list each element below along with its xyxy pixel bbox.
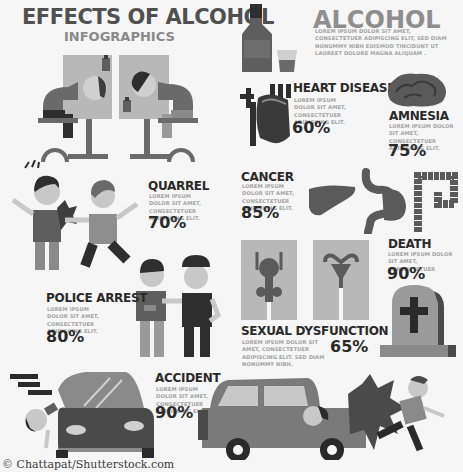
- drunk-men-illustration: [38, 52, 198, 162]
- police-arrest-percent: 80%: [46, 327, 84, 346]
- sexual-dysfunction-description: LOREM IPSUM DOLOR SIT AMET, CONSECTETUER…: [242, 339, 330, 368]
- shot-glass-icon: [277, 50, 297, 72]
- intestine-icon: [412, 168, 460, 234]
- death-heading: DEATH: [388, 237, 431, 251]
- accident-percent: 90%: [155, 403, 193, 422]
- amnesia-heading: AMNESIA: [389, 109, 449, 123]
- cancer-percent: 85%: [241, 203, 279, 222]
- liver-icon: [307, 183, 357, 217]
- amnesia-percent: 75%: [388, 141, 426, 160]
- fighting-men-illustration: [5, 160, 145, 270]
- reproductive-organs-illustration: [241, 240, 371, 322]
- police-arrest-heading: POLICE ARREST: [46, 291, 147, 305]
- brain-icon: [384, 70, 448, 110]
- quarrel-percent: 70%: [148, 213, 186, 232]
- car-hitting-pedestrian-illustration: [198, 368, 460, 460]
- tombstone-icon: [378, 283, 460, 359]
- police-arrest-illustration: [132, 255, 224, 360]
- stomach-icon: [360, 168, 410, 234]
- heart-disease-heading: HEART DISEASE: [293, 81, 395, 95]
- heart-disease-percent: 60%: [292, 118, 330, 137]
- sexual-dysfunction-heading: SEXUAL DYSFUNCTION: [241, 324, 388, 338]
- infographic-title: EFFECTS OF ALCOHOL: [22, 5, 274, 29]
- bottle-icon: [240, 4, 274, 72]
- quarrel-heading: QUARREL: [148, 179, 209, 193]
- photo-credit: © Chattapat/Shutterstock.com: [2, 458, 174, 471]
- infographic-subtitle: INFOGRAPHICS: [64, 29, 175, 44]
- heart-icon: [240, 80, 296, 146]
- cancer-heading: CANCER: [241, 170, 294, 184]
- alcohol-description: LOREM IPSUM DOLOR SIT AMET, CONSECTETUER…: [315, 28, 460, 57]
- death-percent: 90%: [387, 264, 425, 283]
- crashed-car-illustration: [6, 368, 156, 458]
- sexual-dysfunction-percent: 65%: [330, 337, 368, 356]
